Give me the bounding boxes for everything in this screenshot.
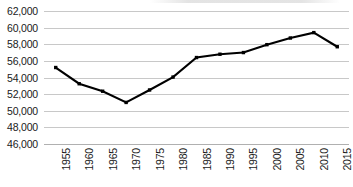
y-axis-tick-labels: 62,00060,00058,00056,00054,00052,00050,0… bbox=[0, 0, 44, 155]
y-axis-tick-label: 48,000 bbox=[7, 121, 38, 133]
x-axis-tick-label: 1970 bbox=[130, 148, 142, 171]
y-axis-tick-label: 58,000 bbox=[7, 38, 38, 50]
data-point-marker bbox=[195, 56, 198, 59]
data-point-marker bbox=[124, 101, 127, 104]
line-chart: 62,00060,00058,00056,00054,00052,00050,0… bbox=[0, 0, 353, 187]
x-axis-tick-label: 1995 bbox=[247, 148, 259, 171]
series-layer bbox=[44, 11, 349, 144]
x-axis-tick-label: 2005 bbox=[294, 148, 306, 171]
data-point-marker bbox=[171, 75, 174, 78]
x-axis-tick-label: 1980 bbox=[177, 148, 189, 171]
series-markers bbox=[54, 31, 339, 104]
y-axis-tick-label: 62,000 bbox=[7, 5, 38, 17]
y-axis-tick-label: 52,000 bbox=[7, 88, 38, 100]
data-point-marker bbox=[101, 90, 104, 93]
data-point-marker bbox=[336, 45, 339, 48]
x-axis-tick-label: 1975 bbox=[154, 148, 166, 171]
y-axis-tick-label: 56,000 bbox=[7, 55, 38, 67]
x-axis-tick-label: 2000 bbox=[271, 148, 283, 171]
x-axis-tick-label: 1965 bbox=[107, 148, 119, 171]
gridline bbox=[44, 144, 349, 145]
x-axis-tick-label: 2010 bbox=[318, 148, 330, 171]
x-axis-tick-label: 2015 bbox=[341, 148, 353, 171]
x-axis-tick-label: 1960 bbox=[83, 148, 95, 171]
data-point-marker bbox=[218, 53, 221, 56]
data-point-marker bbox=[77, 82, 80, 85]
x-axis-tick-label: 1955 bbox=[60, 148, 72, 171]
data-point-marker bbox=[242, 51, 245, 54]
y-axis-tick-label: 54,000 bbox=[7, 72, 38, 84]
data-point-marker bbox=[54, 66, 57, 69]
x-axis-tick-label: 1990 bbox=[224, 148, 236, 171]
data-point-marker bbox=[289, 36, 292, 39]
x-axis-tick-labels: 1955196019651970197519801985199019952000… bbox=[44, 146, 349, 187]
series-line bbox=[56, 33, 338, 103]
y-axis-tick-label: 50,000 bbox=[7, 105, 38, 117]
data-point-marker bbox=[312, 31, 315, 34]
plot-area bbox=[44, 11, 349, 144]
x-axis-tick-label: 1985 bbox=[201, 148, 213, 171]
data-point-marker bbox=[265, 43, 268, 46]
data-point-marker bbox=[148, 88, 151, 91]
y-axis-tick-label: 46,000 bbox=[7, 138, 38, 150]
y-axis-tick-label: 60,000 bbox=[7, 22, 38, 34]
cropped-title-artifact bbox=[150, 0, 340, 3]
